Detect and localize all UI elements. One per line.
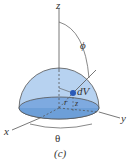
volume-element: [70, 90, 76, 96]
phi-label: ϕ: [80, 40, 86, 51]
z-coord-label: z: [75, 100, 78, 108]
r-label: r: [64, 98, 68, 107]
y-axis: [99, 112, 120, 118]
x-axis: [12, 118, 40, 130]
dv-label: dV: [77, 86, 89, 97]
theta-arc: [30, 124, 92, 128]
caption: (c): [54, 148, 66, 159]
y-axis-label: y: [121, 113, 126, 124]
x-axis-label: x: [4, 126, 9, 137]
z-axis-label: z: [56, 0, 60, 11]
theta-label: θ: [55, 133, 60, 144]
hemisphere-diagram: [0, 0, 132, 161]
